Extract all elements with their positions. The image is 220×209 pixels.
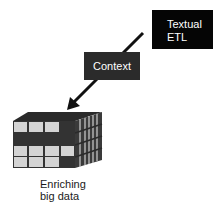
caption-line1: Enriching xyxy=(40,178,86,190)
textual-etl-line2: ETL xyxy=(167,31,213,44)
textual-etl-line1: Textual xyxy=(167,18,213,31)
cube-caption: Enriching big data xyxy=(40,178,86,202)
data-cube-icon xyxy=(13,112,102,168)
context-label: Context xyxy=(93,60,131,72)
caption-line2: big data xyxy=(40,190,86,202)
textual-etl-box: Textual ETL xyxy=(152,10,213,49)
context-box: Context xyxy=(84,52,140,80)
